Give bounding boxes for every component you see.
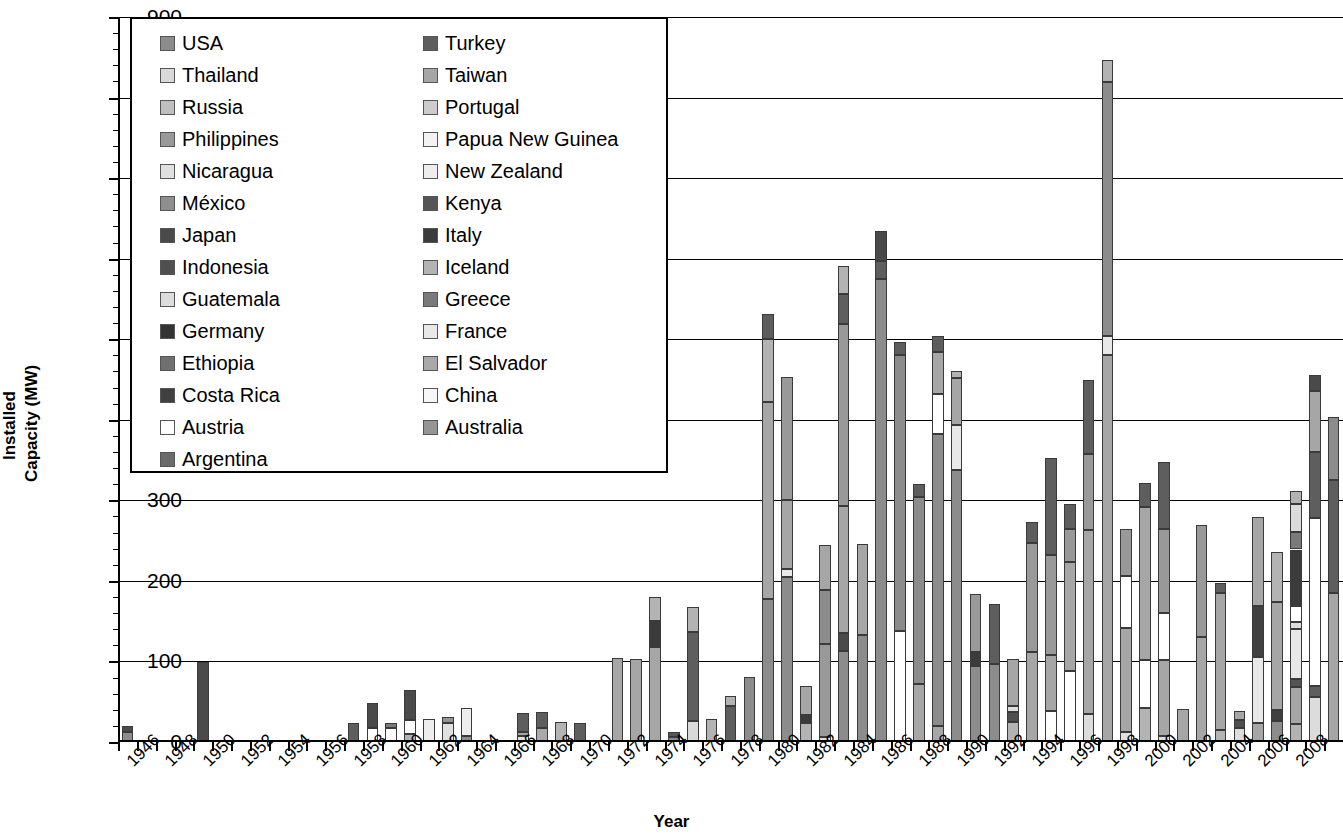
y-tick-300 (109, 500, 118, 502)
legend-label: Japan (182, 225, 237, 245)
y-tick-700 (109, 178, 118, 180)
legend-item-iceland[interactable]: Iceland (423, 251, 666, 283)
y-tick-200 (109, 581, 118, 583)
y-axis-title-line2: Capacity (MW) (22, 365, 42, 482)
legend-swatch-icon (423, 420, 438, 435)
y-axis-title: Installed Capacity (MW) (0, 270, 54, 470)
legend-columns: USAThailandRussiaPhilippinesNicaraguaMéx… (132, 27, 666, 475)
legend-item-argentina[interactable]: Argentina (160, 443, 399, 475)
legend-item-costa-rica[interactable]: Costa Rica (160, 379, 399, 411)
legend-swatch-icon (160, 292, 175, 307)
legend-item-papua-new-guinea[interactable]: Papua New Guinea (423, 123, 666, 155)
legend-item-france[interactable]: France (423, 315, 666, 347)
y-tick-400 (109, 420, 118, 422)
legend-label: Austria (182, 417, 244, 437)
legend-item-usa[interactable]: USA (160, 27, 399, 59)
legend-swatch-icon (423, 292, 438, 307)
legend-item-nicaragua[interactable]: Nicaragua (160, 155, 399, 187)
legend-label: Kenya (445, 193, 502, 213)
legend-item-russia[interactable]: Russia (160, 91, 399, 123)
legend-label: USA (182, 33, 223, 53)
legend-swatch-icon (423, 132, 438, 147)
legend-swatch-icon (160, 452, 175, 467)
legend-swatch-icon (423, 324, 438, 339)
x-tick (118, 742, 120, 751)
legend-swatch-icon (160, 196, 175, 211)
legend-label: Indonesia (182, 257, 269, 277)
legend-item-ethiopia[interactable]: Ethiopia (160, 347, 399, 379)
legend-item-turkey[interactable]: Turkey (423, 27, 666, 59)
legend-label: New Zealand (445, 161, 563, 181)
legend-label: Iceland (445, 257, 510, 277)
legend-swatch-icon (160, 260, 175, 275)
legend-label: Costa Rica (182, 385, 280, 405)
legend-item-austria[interactable]: Austria (160, 411, 399, 443)
legend-label: Taiwan (445, 65, 507, 85)
legend-swatch-icon (160, 68, 175, 83)
legend-item-guatemala[interactable]: Guatemala (160, 283, 399, 315)
legend-label: México (182, 193, 245, 213)
legend-label: Turkey (445, 33, 505, 53)
legend-label: Philippines (182, 129, 279, 149)
legend-swatch-icon (160, 132, 175, 147)
legend-label: Germany (182, 321, 264, 341)
legend-swatch-icon (160, 164, 175, 179)
legend-item-germany[interactable]: Germany (160, 315, 399, 347)
legend-swatch-icon (423, 196, 438, 211)
legend-label: Argentina (182, 449, 268, 469)
legend-item-china[interactable]: China (423, 379, 666, 411)
legend-item-kenya[interactable]: Kenya (423, 187, 666, 219)
legend-swatch-icon (423, 260, 438, 275)
legend-swatch-icon (160, 356, 175, 371)
legend-item-indonesia[interactable]: Indonesia (160, 251, 399, 283)
legend-swatch-icon (423, 68, 438, 83)
legend-label: China (445, 385, 497, 405)
legend-column-1: USAThailandRussiaPhilippinesNicaraguaMéx… (132, 27, 399, 475)
legend-item-portugal[interactable]: Portugal (423, 91, 666, 123)
legend-swatch-icon (423, 164, 438, 179)
y-tick-0 (109, 742, 118, 744)
legend-label: Thailand (182, 65, 259, 85)
legend-label: Papua New Guinea (445, 129, 618, 149)
y-tick-500 (109, 339, 118, 341)
legend-label: El Salvador (445, 353, 547, 373)
chart-legend: USAThailandRussiaPhilippinesNicaraguaMéx… (130, 17, 668, 473)
legend-swatch-icon (423, 36, 438, 51)
legend-label: Nicaragua (182, 161, 273, 181)
legend-item-thailand[interactable]: Thailand (160, 59, 399, 91)
legend-swatch-icon (160, 420, 175, 435)
legend-item-taiwan[interactable]: Taiwan (423, 59, 666, 91)
legend-label: Guatemala (182, 289, 280, 309)
legend-swatch-icon (160, 324, 175, 339)
legend-label: Portugal (445, 97, 520, 117)
legend-label: Australia (445, 417, 523, 437)
y-tick-900 (109, 17, 118, 19)
legend-swatch-icon (423, 356, 438, 371)
legend-item-australia[interactable]: Australia (423, 411, 666, 443)
legend-item-philippines[interactable]: Philippines (160, 123, 399, 155)
legend-swatch-icon (160, 228, 175, 243)
x-axis-title: Year (0, 812, 1343, 832)
y-tick-100 (109, 661, 118, 663)
legend-label: France (445, 321, 507, 341)
legend-item-italy[interactable]: Italy (423, 219, 666, 251)
legend-swatch-icon (423, 388, 438, 403)
legend-swatch-icon (423, 100, 438, 115)
legend-swatch-icon (160, 100, 175, 115)
legend-item-greece[interactable]: Greece (423, 283, 666, 315)
legend-swatch-icon (423, 228, 438, 243)
legend-label: Italy (445, 225, 482, 245)
legend-swatch-icon (160, 388, 175, 403)
legend-item-el-salvador[interactable]: El Salvador (423, 347, 666, 379)
legend-column-2: TurkeyTaiwanPortugalPapua New GuineaNew … (399, 27, 666, 475)
legend-label: Russia (182, 97, 243, 117)
legend-swatch-icon (160, 36, 175, 51)
legend-label: Ethiopia (182, 353, 254, 373)
legend-label: Greece (445, 289, 511, 309)
legend-item-japan[interactable]: Japan (160, 219, 399, 251)
legend-item-new-zealand[interactable]: New Zealand (423, 155, 666, 187)
y-tick-600 (109, 259, 118, 261)
legend-item-méxico[interactable]: México (160, 187, 399, 219)
y-tick-800 (109, 98, 118, 100)
y-axis-title-line1: Installed (0, 391, 20, 460)
